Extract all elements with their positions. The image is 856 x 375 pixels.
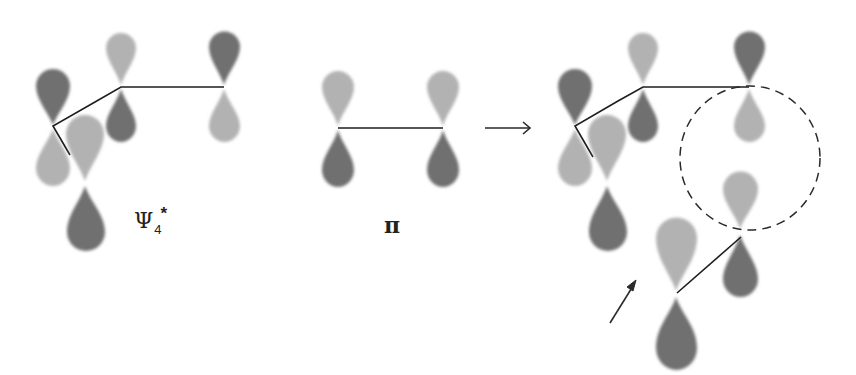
- reaction-arrow-icon: [485, 122, 530, 134]
- approach-arrow-icon: [610, 280, 636, 323]
- psi-superscript: *: [161, 204, 168, 223]
- p-orbital-e-right: [723, 172, 758, 298]
- pi-dienophile: [322, 71, 459, 187]
- orbital-diagram: Ψ4* π: [0, 0, 856, 375]
- pi-label: π: [384, 214, 400, 236]
- p-orbital-pi-left: [322, 71, 354, 187]
- p-orbital-f-right: [656, 217, 697, 370]
- orbital-svg: [0, 0, 856, 375]
- psi-subscript: 4: [154, 222, 161, 237]
- p-orbital-pi-right: [427, 71, 459, 187]
- p-orbital-b: [66, 115, 105, 251]
- p-orbital-b-right: [588, 115, 627, 251]
- psi4-star-label: Ψ4*: [134, 210, 167, 235]
- psi-symbol: Ψ: [134, 208, 153, 233]
- interaction-complex: [558, 32, 820, 371]
